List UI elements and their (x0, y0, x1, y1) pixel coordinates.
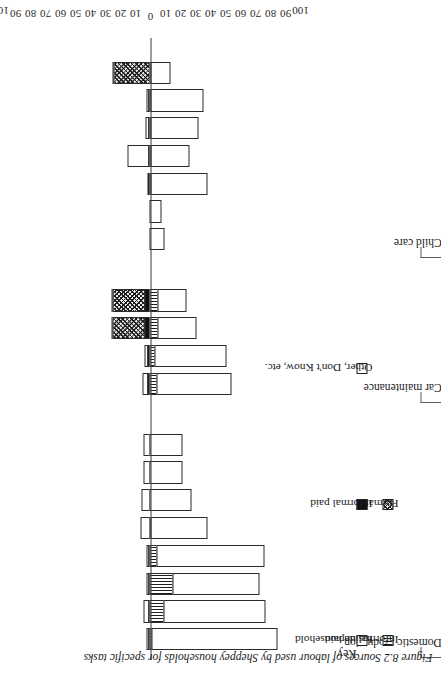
bar-stack-positive (112, 317, 150, 339)
bar-segment (150, 62, 170, 84)
axis-tick-label: 70 (39, 8, 50, 20)
bar-stack-negative (150, 373, 231, 395)
value-axis: 1009080706050403020100102030405060708090… (0, 2, 300, 24)
zero-axis-line (150, 38, 151, 660)
bar-stack-negative (150, 145, 189, 167)
bar-segment (154, 345, 226, 367)
rotated-figure-stage: 4 Domestic production5 Car maintenance6 … (0, 0, 441, 694)
bar-stack-negative (150, 628, 277, 650)
bar-stack-negative (150, 345, 226, 367)
axis-tick-label: 70 (249, 8, 260, 20)
bar-segment (127, 145, 150, 167)
bar-segment (112, 317, 145, 339)
axis-tick-label: 30 (99, 8, 110, 20)
bar-segment (113, 62, 151, 84)
bar-segment (150, 117, 198, 139)
bar-stack-negative (150, 434, 182, 456)
bar-stack-negative (150, 117, 198, 139)
bar-segment (156, 545, 264, 567)
legend-label: Other, Don't Know, etc. (264, 362, 372, 374)
axis-tick-label: 100 (291, 5, 308, 17)
bar-stack-negative (150, 545, 264, 567)
bar-segment (172, 573, 259, 595)
axis-tick-label: 40 (84, 8, 95, 20)
bar-segment (157, 317, 196, 339)
axis-tick-label: 10 (129, 8, 140, 20)
legend-label: Informal paid (310, 498, 372, 510)
bar-segment (149, 461, 182, 483)
bar-stack-positive (113, 62, 151, 84)
bar-stack-negative (150, 62, 170, 84)
axis-tick-label: 30 (189, 8, 200, 20)
bar-segment (149, 489, 191, 511)
bar-stack-negative (150, 228, 164, 250)
axis-tick-label: 10 (159, 8, 170, 20)
figure-caption-text: Sources of labour used by Sheppey househ… (83, 651, 380, 664)
figure-caption: Figure 8.2 Sources of labour used by She… (83, 651, 432, 664)
axis-tick-label: 50 (69, 8, 80, 20)
axis-tick-label: 0 (147, 11, 153, 23)
axis-tick-label: 40 (204, 8, 215, 20)
bar-stack-negative (150, 317, 196, 339)
axis-tick-label: 20 (114, 8, 125, 20)
figure-page: 4 Domestic production5 Car maintenance6 … (0, 0, 441, 694)
bar-segment (150, 89, 203, 111)
bar-segment (150, 517, 207, 539)
axis-tick-label: 90 (279, 8, 290, 20)
bar-segment (112, 289, 145, 311)
axis-tick-label: 90 (9, 8, 20, 20)
bar-segment (150, 173, 207, 195)
bar-segment (151, 628, 277, 650)
bar-segment (140, 517, 151, 539)
bar-segment (157, 289, 186, 311)
bar-stack-negative (150, 489, 191, 511)
bar-stack-negative (150, 89, 203, 111)
bar-stack-negative (150, 573, 259, 595)
legend-label: Formal (365, 498, 398, 510)
bar-stack-negative (150, 461, 182, 483)
bar-stack-positive (128, 145, 151, 167)
axis-tick-label: 80 (264, 8, 275, 20)
bar-segment (156, 373, 231, 395)
axis-tick-label: 20 (174, 8, 185, 20)
figure-number: Figure 8.2 (381, 651, 432, 664)
axis-tick-label: 60 (54, 8, 65, 20)
axis-tick-label: 80 (24, 8, 35, 20)
bar-segment (163, 600, 265, 622)
axis-tick-label: 50 (219, 8, 230, 20)
bar-stack-negative (150, 200, 161, 222)
bar-segment (149, 434, 182, 456)
legend: KeyInside householdInformal unpaidInform… (356, 38, 426, 660)
axis-tick-label: 100 (0, 5, 9, 17)
bar-segment (150, 145, 189, 167)
bar-stack-negative (150, 600, 265, 622)
bar-stack-positive (112, 289, 150, 311)
axis-tick-label: 60 (234, 8, 245, 20)
bar-stack-negative (150, 289, 186, 311)
bar-segment (149, 573, 173, 595)
bar-stack-negative (150, 173, 207, 195)
bar-stack-negative (150, 517, 207, 539)
legend-label: Informal unpaid (324, 634, 398, 646)
plot-area (0, 38, 300, 660)
